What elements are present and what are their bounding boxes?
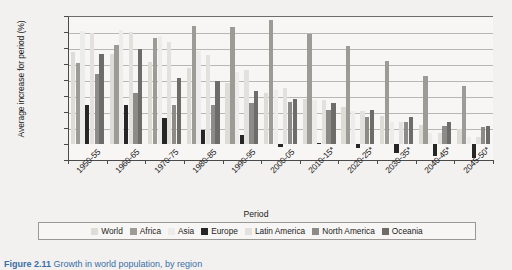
bar — [187, 68, 191, 144]
bar — [341, 107, 345, 144]
bar — [278, 144, 282, 147]
bar — [457, 129, 461, 144]
chart-panel: Average increase for period (%) 16.00%14… — [0, 0, 512, 248]
bar — [201, 130, 205, 144]
bar — [404, 122, 408, 144]
bar — [85, 105, 89, 144]
bar — [394, 144, 398, 153]
bar — [351, 111, 355, 144]
bar — [447, 122, 451, 144]
bar — [110, 54, 114, 144]
bar — [442, 126, 446, 144]
bar — [370, 110, 374, 144]
bar — [153, 38, 157, 144]
bar — [322, 100, 326, 144]
bar — [433, 144, 437, 156]
bar — [167, 42, 171, 144]
bar — [124, 105, 128, 144]
bar — [71, 52, 75, 144]
bar — [419, 125, 423, 144]
bar — [114, 45, 118, 144]
bar — [486, 126, 490, 144]
bar — [129, 32, 133, 144]
bar — [215, 81, 219, 144]
bar — [249, 103, 253, 144]
bar — [90, 33, 94, 144]
figure-caption: Figure 2.11 Growth in world population, … — [4, 259, 202, 269]
bar — [476, 137, 480, 144]
bar — [95, 74, 99, 144]
bar — [356, 144, 360, 148]
bar — [288, 102, 292, 144]
bar — [331, 103, 335, 144]
bar — [162, 118, 166, 144]
figure-container: Average increase for period (%) 16.00%14… — [0, 0, 512, 270]
bar — [365, 117, 369, 144]
bar — [399, 122, 403, 144]
bar — [192, 26, 196, 144]
bar — [317, 143, 321, 144]
bar — [172, 105, 176, 144]
bar — [385, 61, 389, 144]
bar — [390, 122, 394, 144]
bar — [99, 54, 103, 144]
bar — [428, 133, 432, 144]
bar — [244, 70, 248, 144]
bars-layer — [0, 0, 512, 248]
bar — [269, 20, 273, 144]
bar — [254, 91, 258, 144]
bar — [472, 144, 476, 158]
bar — [148, 62, 152, 144]
bar — [462, 86, 466, 144]
bar — [409, 117, 413, 144]
bar — [380, 116, 384, 144]
bar — [303, 99, 307, 144]
bar — [196, 51, 200, 144]
bar — [76, 63, 80, 144]
bar — [293, 99, 297, 144]
bar — [438, 133, 442, 144]
bar — [138, 49, 142, 144]
bar — [158, 36, 162, 144]
bar — [360, 111, 364, 144]
bar — [423, 76, 427, 144]
bar — [225, 83, 229, 144]
bar — [240, 135, 244, 144]
bar — [264, 93, 268, 144]
bar — [119, 30, 123, 144]
figure-number: Figure 2.11 — [4, 259, 51, 269]
bar — [235, 72, 239, 144]
bar — [80, 31, 84, 144]
bar — [274, 90, 278, 144]
bar — [230, 27, 234, 144]
bar — [133, 93, 137, 144]
bar — [312, 100, 316, 144]
bar — [283, 88, 287, 144]
figure-caption-text: Growth in world population, by region — [54, 259, 203, 269]
bar — [346, 46, 350, 144]
bar — [481, 127, 485, 144]
bar — [177, 78, 181, 144]
bar — [326, 110, 330, 144]
bar — [211, 105, 215, 144]
bar — [467, 137, 471, 144]
bar — [307, 34, 311, 144]
bar — [206, 55, 210, 144]
